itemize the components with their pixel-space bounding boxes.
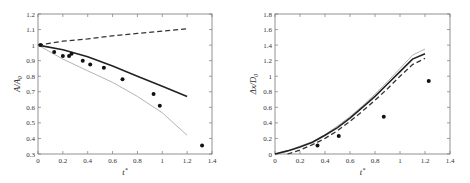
x-tick-label: 0.8: [371, 157, 380, 165]
data-marker: [427, 79, 431, 83]
y-tick-label: 1: [269, 73, 273, 81]
x-axis-label: t*: [122, 167, 127, 177]
y-tick-label: 0.9: [26, 57, 35, 65]
data-marker: [70, 52, 74, 56]
y-tick-label: 0.2: [263, 135, 272, 143]
y-tick-label: 0.5: [26, 119, 35, 127]
plot-frame: [275, 14, 450, 154]
x-axis-label: t*: [360, 167, 365, 177]
data-marker: [38, 43, 42, 47]
series-solid-line: [275, 54, 425, 154]
data-marker: [337, 134, 341, 138]
y-tick-label: 0.7: [26, 88, 35, 96]
x-tick-label: 0.2: [296, 157, 305, 165]
area-ratio-plot: 00.20.40.60.811.21.40.30.40.50.60.70.80.…: [12, 11, 217, 178]
displacement-plot: 00.20.40.60.811.21.400.20.40.60.811.21.4…: [248, 11, 455, 178]
data-marker: [61, 54, 65, 58]
x-tick-label: 0.4: [321, 157, 330, 165]
figure: 00.20.40.60.811.21.40.30.40.50.60.70.80.…: [0, 0, 470, 183]
series-solid-line: [38, 45, 187, 96]
data-marker: [102, 66, 106, 70]
y-tick-label: 0.8: [26, 73, 35, 81]
plot-frame: [38, 14, 212, 154]
x-tick-label: 1: [398, 157, 402, 165]
y-tick-label: 1.6: [263, 26, 272, 34]
data-marker: [152, 92, 156, 96]
data-marker: [81, 59, 85, 63]
y-tick-label: 1.1: [26, 26, 35, 34]
x-tick-label: 1.2: [183, 157, 192, 165]
x-tick-label: 0.6: [108, 157, 117, 165]
data-marker: [158, 104, 162, 108]
data-marker: [121, 77, 125, 81]
x-tick-label: 1.2: [421, 157, 430, 165]
y-tick-label: 0.6: [263, 104, 272, 112]
y-axis-label: Δx/D0: [248, 74, 259, 95]
x-tick-label: 0.2: [58, 157, 67, 165]
y-tick-label: 1.2: [26, 11, 35, 19]
data-marker: [88, 63, 92, 67]
x-tick-label: 0.8: [133, 157, 142, 165]
y-tick-label: 0.3: [26, 151, 35, 159]
y-tick-label: 1.8: [263, 11, 272, 19]
series-dashed-line: [38, 29, 187, 45]
y-tick-label: 0: [269, 151, 273, 159]
series-dashed-line: [288, 58, 426, 154]
y-tick-label: 1.2: [263, 57, 272, 65]
data-marker: [316, 143, 320, 147]
y-tick-label: 0.8: [263, 88, 272, 96]
data-marker: [200, 143, 204, 147]
y-tick-label: 0.4: [26, 135, 35, 143]
series-light-line: [38, 45, 187, 135]
data-marker: [382, 115, 386, 119]
x-tick-label: 1.4: [208, 157, 217, 165]
x-tick-label: 0.4: [83, 157, 92, 165]
y-tick-label: 0.4: [263, 119, 272, 127]
x-tick-label: 0.6: [346, 157, 355, 165]
y-axis-label: A/A0: [12, 76, 23, 93]
y-tick-label: 0.6: [26, 104, 35, 112]
series-light-line: [275, 49, 425, 154]
x-tick-label: 0: [36, 157, 40, 165]
y-tick-label: 1.4: [263, 42, 272, 50]
data-marker: [52, 50, 56, 54]
x-tick-label: 1: [161, 157, 165, 165]
x-tick-label: 0: [273, 157, 277, 165]
y-tick-label: 1: [32, 42, 36, 50]
x-tick-label: 1.4: [446, 157, 455, 165]
